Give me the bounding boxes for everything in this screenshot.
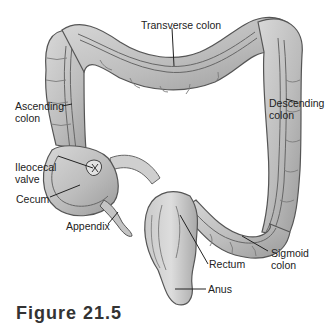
- label-rectum: Rectum: [209, 258, 245, 270]
- label-anus: Anus: [208, 283, 232, 295]
- label-transverse-colon: Transverse colon: [141, 19, 221, 31]
- descending-colon: [258, 19, 302, 236]
- label-appendix: Appendix: [66, 220, 110, 232]
- rectum: [145, 192, 198, 305]
- label-ascending-colon: Ascending colon: [15, 100, 64, 124]
- label-descending-colon: Descending colon: [269, 97, 324, 121]
- figure-caption: Figure 21.5: [16, 303, 122, 324]
- ileocecal-valve-shape: [86, 160, 102, 176]
- label-ileocecal-valve: Ileocecal valve: [15, 161, 56, 185]
- label-sigmoid-colon: Sigmoid colon: [271, 247, 309, 271]
- label-cecum: Cecum: [16, 193, 49, 205]
